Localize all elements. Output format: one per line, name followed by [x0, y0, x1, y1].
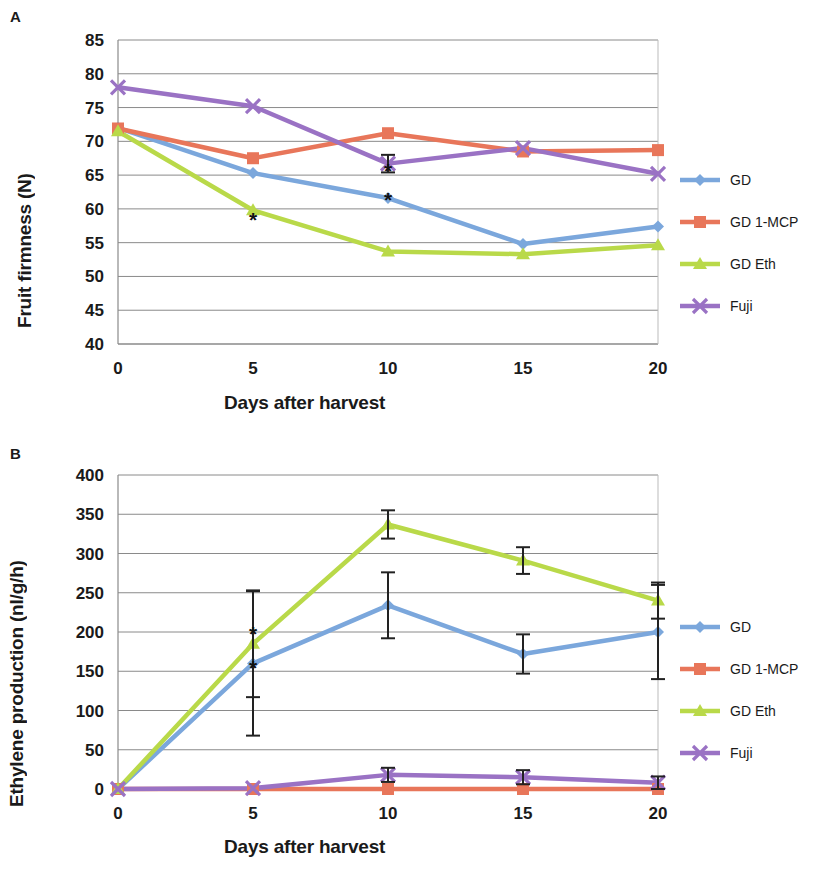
y-tick-label: 65: [85, 166, 104, 185]
x-tick-label: 10: [379, 359, 398, 378]
legend-label: GD 1-MCP: [730, 214, 798, 230]
data-point-marker: [694, 174, 706, 186]
y-tick-label: 45: [85, 301, 104, 320]
significance-asterisk: *: [249, 622, 258, 645]
legend-label: Fuji: [730, 298, 753, 314]
legend-item-gd-eth: GD Eth: [680, 256, 776, 272]
x-tick-label: 20: [649, 359, 668, 378]
legend-label: GD Eth: [730, 703, 776, 719]
x-tick-label: 10: [379, 804, 398, 823]
legend-item-gd-eth: GD Eth: [680, 703, 776, 719]
y-tick-label: 400: [76, 466, 104, 485]
data-point-marker: [382, 783, 394, 795]
y-tick-label: 350: [76, 505, 104, 524]
y-tick-label: 60: [85, 200, 104, 219]
panel-b: B Ethylene production (nl/g/h) 050100150…: [0, 437, 825, 874]
data-point-marker: [382, 127, 394, 139]
x-tick-label: 0: [113, 804, 122, 823]
y-tick-label: 80: [85, 65, 104, 84]
data-point-marker: [247, 167, 259, 179]
y-tick-label: 150: [76, 662, 104, 681]
data-point-marker: [652, 144, 664, 156]
x-tick-label: 20: [649, 804, 668, 823]
legend-item-gd-1-mcp: GD 1-MCP: [680, 214, 798, 230]
data-point-marker: [694, 663, 706, 675]
significance-asterisk: *: [384, 188, 393, 211]
legend-item-fuji: Fuji: [680, 745, 753, 761]
y-tick-label: 40: [85, 335, 104, 354]
y-tick-label: 75: [85, 99, 104, 118]
y-tick-label: 50: [85, 741, 104, 760]
y-tick-label: 0: [95, 780, 104, 799]
panel-a: A Fruit firmness (N) 4045505560657075808…: [0, 0, 825, 437]
y-tick-label: 85: [85, 31, 104, 50]
y-tick-label: 200: [76, 623, 104, 642]
y-tick-label: 50: [85, 267, 104, 286]
y-tick-label: 250: [76, 584, 104, 603]
data-point-marker: [247, 152, 259, 164]
legend-label: GD: [730, 619, 751, 635]
y-tick-label: 55: [85, 234, 104, 253]
legend-item-fuji: Fuji: [680, 298, 753, 314]
data-point-marker: [652, 220, 664, 232]
significance-asterisk: *: [249, 208, 258, 231]
x-tick-label: 15: [514, 804, 533, 823]
panel-b-x-axis-title: Days after harvest: [224, 836, 385, 858]
legend-item-gd-1-mcp: GD 1-MCP: [680, 661, 798, 677]
y-tick-label: 70: [85, 132, 104, 151]
legend-item-gd: GD: [680, 619, 751, 635]
significance-asterisk: *: [249, 656, 258, 679]
data-point-marker: [694, 621, 706, 633]
x-tick-label: 5: [248, 359, 257, 378]
legend-item-gd: GD: [680, 172, 751, 188]
panel-b-chart: 05010015020025030035040005101520**GDGD 1…: [0, 437, 825, 874]
significance-asterisk: *: [384, 159, 393, 182]
legend-label: GD Eth: [730, 256, 776, 272]
legend-label: Fuji: [730, 745, 753, 761]
y-tick-label: 100: [76, 702, 104, 721]
x-tick-label: 15: [514, 359, 533, 378]
x-tick-label: 5: [248, 804, 257, 823]
legend-label: GD 1-MCP: [730, 661, 798, 677]
legend-label: GD: [730, 172, 751, 188]
data-point-marker: [694, 216, 706, 228]
y-tick-label: 300: [76, 545, 104, 564]
panel-a-x-axis-title: Days after harvest: [224, 392, 385, 414]
x-tick-label: 0: [113, 359, 122, 378]
panel-a-chart: 4045505560657075808505101520***GDGD 1-MC…: [0, 0, 825, 437]
